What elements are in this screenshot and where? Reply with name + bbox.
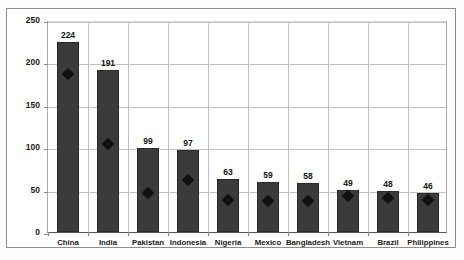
bar-group[interactable]: 58Bangladesh (288, 22, 328, 232)
y-tick-label: 200 (6, 57, 40, 67)
x-tick-mark (48, 232, 49, 236)
x-tick-label: India (99, 238, 117, 247)
x-tick-label: Philippines (407, 238, 449, 247)
x-tick-mark (408, 232, 409, 236)
bar-group[interactable]: 99Pakistan (128, 22, 168, 232)
y-tick-label: 100 (6, 142, 40, 152)
x-tick-mark (128, 232, 129, 236)
bar[interactable] (97, 70, 119, 232)
bar-group[interactable]: 63Nigeria (208, 22, 248, 232)
x-tick-label: Brazil (377, 238, 398, 247)
bar-value-label: 224 (61, 30, 75, 40)
y-tick-label: 0 (6, 227, 40, 237)
x-tick-label: Bangladesh (286, 238, 330, 247)
bar-value-label: 59 (263, 170, 272, 180)
bar-value-label: 46 (423, 181, 432, 191)
x-tick-mark (208, 232, 209, 236)
bar-value-label: 48 (383, 179, 392, 189)
plot-area: 224China191India99Pakistan97Indonesia63N… (47, 21, 447, 233)
x-tick-mark (168, 232, 169, 236)
bar-group[interactable]: 191India (88, 22, 128, 232)
x-tick-label: China (57, 238, 79, 247)
y-tick-label: 150 (6, 100, 40, 110)
chart-figure: Unbanked Adults (Millions) 224China191In… (0, 0, 464, 260)
x-tick-mark (88, 232, 89, 236)
bar-group[interactable]: 46Philippines (408, 22, 448, 232)
bar-group[interactable]: 59Mexico (248, 22, 288, 232)
bar-value-label: 191 (101, 58, 115, 68)
x-tick-label: Indonesia (170, 238, 206, 247)
y-tick-label: 50 (6, 185, 40, 195)
x-tick-label: Mexico (255, 238, 281, 247)
x-tick-label: Nigeria (215, 238, 241, 247)
bar-group[interactable]: 48Brazil (368, 22, 408, 232)
bar-group[interactable]: 97Indonesia (168, 22, 208, 232)
bar-value-label: 49 (343, 178, 352, 188)
x-tick-label: Vietnam (333, 238, 363, 247)
bar-value-label: 99 (143, 136, 152, 146)
bar-value-label: 58 (303, 171, 312, 181)
bar[interactable] (297, 183, 319, 232)
bar-value-label: 63 (223, 167, 232, 177)
x-tick-mark (368, 232, 369, 236)
bar-group[interactable]: 224China (48, 22, 88, 232)
bar-value-label: 97 (183, 138, 192, 148)
x-tick-mark (328, 232, 329, 236)
bar-group[interactable]: 49Vietnam (328, 22, 368, 232)
x-tick-label: Pakistan (132, 238, 164, 247)
x-tick-mark (288, 232, 289, 236)
x-tick-mark (248, 232, 249, 236)
bar[interactable] (177, 150, 199, 232)
y-tick-label: 250 (6, 15, 40, 25)
